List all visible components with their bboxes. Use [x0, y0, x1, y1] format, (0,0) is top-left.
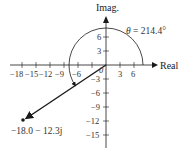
- angle-value: = 214.4°: [131, 26, 166, 36]
- complex-plane-diagram: Imag. Real −18 −15 −12 −9 −6 3 6 0 6 3 −…: [0, 0, 185, 153]
- real-axis-label: Real: [160, 60, 179, 71]
- x-tick-label: 3: [118, 69, 122, 79]
- point-marker: [21, 118, 25, 122]
- y-tick-label: 6: [97, 32, 101, 42]
- x-tick-label: −9: [55, 69, 64, 79]
- y-tick-label: −9: [91, 102, 100, 112]
- real-axis-arrow-icon: [152, 62, 158, 68]
- x-tick-label: −6: [72, 69, 81, 79]
- y-tick-label: −6: [91, 88, 100, 98]
- x-tick-label: −12: [39, 69, 52, 79]
- y-tick-label: 3: [97, 46, 101, 56]
- imag-axis: [103, 16, 109, 148]
- imag-axis-label: Imag.: [96, 2, 119, 13]
- x-tick-label: 6: [131, 69, 135, 79]
- x-tick-label: −18: [10, 69, 23, 79]
- y-tick-label: −3: [91, 74, 100, 84]
- real-axis: [10, 62, 158, 68]
- angle-label: θ = 214.4°: [126, 26, 166, 36]
- point-label: −18.0 − 12.3j: [11, 126, 62, 136]
- imag-axis-arrow-icon: [103, 16, 109, 23]
- y-tick-label: −15: [86, 130, 99, 140]
- y-tick-label: −12: [86, 116, 99, 126]
- x-tick-label: −15: [25, 69, 38, 79]
